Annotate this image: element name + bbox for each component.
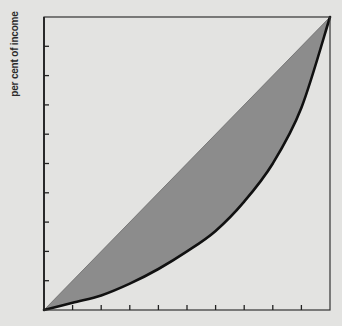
lorenz-chart — [0, 0, 342, 326]
equality-line — [44, 17, 330, 310]
